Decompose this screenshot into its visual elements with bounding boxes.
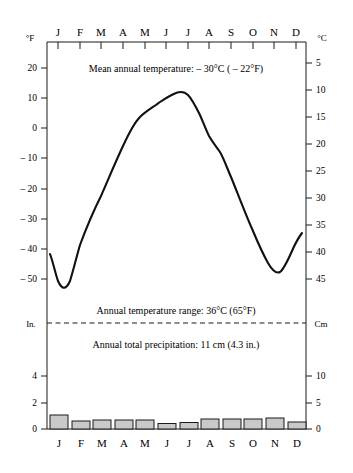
bottom-month-label: J	[187, 437, 192, 449]
bottom-month-label: J	[57, 437, 62, 449]
climograph-figure: °F °C J F M A M J J	[0, 0, 353, 473]
bottom-month-label: J	[165, 437, 170, 449]
top-month-label: F	[77, 26, 83, 38]
temp-left-tick-label: – 10	[19, 153, 37, 163]
temp-right-tick-label: 10	[316, 85, 326, 95]
top-month-label: D	[292, 26, 300, 38]
temp-left-tick-label: – 50	[19, 274, 37, 284]
bottom-month-label: D	[293, 437, 301, 449]
top-month-label: M	[140, 26, 150, 38]
bottom-month-label: A	[206, 437, 214, 449]
temp-left-tick-label: – 30	[19, 214, 37, 224]
temp-left-tick-label: 10	[28, 93, 38, 103]
precip-left-unit-label: In.	[26, 319, 36, 329]
top-month-label: S	[228, 26, 234, 38]
temp-right-unit-label: °C	[317, 33, 327, 43]
temp-left-tick-label: – 20	[19, 184, 37, 194]
temp-right-tick-labels: 5 10 15 20 25 30 35 40 45	[316, 58, 326, 284]
precip-bar	[201, 419, 219, 429]
precip-bar	[244, 419, 262, 429]
precip-bar	[72, 421, 90, 429]
top-month-label: J	[164, 26, 169, 38]
bottom-month-label: S	[229, 437, 235, 449]
precip-bar	[93, 420, 111, 429]
temp-right-tick-label: 35	[316, 220, 326, 230]
bottom-month-label: F	[78, 437, 84, 449]
precip-right-tick-label: 5	[316, 398, 321, 408]
precip-left-tick-label: 0	[32, 424, 37, 434]
top-month-label: J	[56, 26, 61, 38]
temp-right-tick-label: 45	[316, 274, 326, 284]
top-month-label: A	[119, 26, 127, 38]
precip-bar	[288, 422, 306, 429]
precip-bar	[158, 424, 176, 430]
precip-bar	[266, 418, 284, 429]
precip-right-tick-label: 10	[316, 371, 326, 381]
bottom-month-label: M	[97, 437, 107, 449]
temp-right-tick-label: 25	[316, 166, 326, 176]
temp-left-unit-label: °F	[26, 33, 35, 43]
precipitation-total-annotation: Annual total precipitation: 11 cm (4.3 i…	[93, 339, 260, 351]
bottom-month-label: O	[249, 437, 257, 449]
top-month-label: A	[205, 26, 213, 38]
precip-bar	[50, 415, 68, 429]
precip-bar	[180, 423, 198, 430]
top-month-label: J	[186, 26, 191, 38]
temp-left-tick-label: – 40	[19, 244, 37, 254]
temp-right-tick-label: 15	[316, 112, 326, 122]
temp-left-tick-label: 20	[28, 63, 38, 73]
temp-right-tick-label: 20	[316, 139, 326, 149]
precip-bar	[136, 420, 154, 429]
temp-right-tick-label: 5	[316, 58, 321, 68]
temp-right-tick-label: 30	[316, 193, 326, 203]
precip-left-tick-label: 2	[32, 398, 37, 408]
temp-right-tick-label: 40	[316, 247, 326, 257]
precip-bar	[115, 420, 133, 429]
top-month-label: N	[270, 26, 278, 38]
top-month-label: M	[96, 26, 106, 38]
precip-left-tick-label: 4	[32, 371, 37, 381]
temp-left-tick-label: 0	[32, 123, 37, 133]
bottom-month-label: N	[271, 437, 279, 449]
temperature-range-annotation: Annual temperature range: 36°C (65°F)	[96, 305, 255, 317]
bottom-month-label: A	[120, 437, 128, 449]
precip-right-tick-label: 0	[316, 424, 321, 434]
precip-left-tick-labels: 4 2 0	[32, 371, 37, 434]
precip-bar	[223, 419, 241, 429]
precip-right-unit-label: Cm	[314, 319, 327, 329]
bottom-month-label: M	[140, 437, 150, 449]
mean-temperature-annotation: Mean annual temperature: – 30°C ( – 22°F…	[89, 63, 263, 75]
top-month-label: O	[249, 26, 257, 38]
